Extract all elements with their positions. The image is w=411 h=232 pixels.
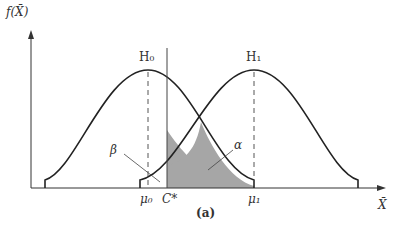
beta-label: β	[110, 143, 117, 157]
x-axis-arrow	[377, 185, 386, 191]
y-axis-arrow	[28, 30, 34, 39]
beta-leader-line	[124, 154, 160, 182]
y-axis-label: f(X̄)	[6, 5, 28, 19]
hypothesis-test-diagram	[0, 0, 411, 232]
mu0-label: μ₀	[140, 192, 153, 206]
mu1-label: μ₁	[248, 192, 261, 206]
h0-label: H₀	[139, 50, 154, 64]
critical-value-label: C*	[162, 192, 177, 206]
figure-caption: (a)	[196, 206, 215, 220]
alpha-label: α	[234, 138, 242, 152]
h1-label: H₁	[246, 50, 261, 64]
x-axis-label: X̄	[378, 198, 387, 212]
